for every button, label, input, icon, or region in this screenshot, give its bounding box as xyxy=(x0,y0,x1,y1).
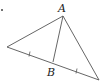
tick-mark-right xyxy=(76,69,77,74)
tick-mark-left xyxy=(29,52,30,57)
triangle-diagram: A B xyxy=(0,0,101,82)
label-B: B xyxy=(46,66,55,79)
label-A: A xyxy=(57,2,66,15)
segment-AB xyxy=(53,16,63,62)
bullet-dot xyxy=(1,9,3,11)
